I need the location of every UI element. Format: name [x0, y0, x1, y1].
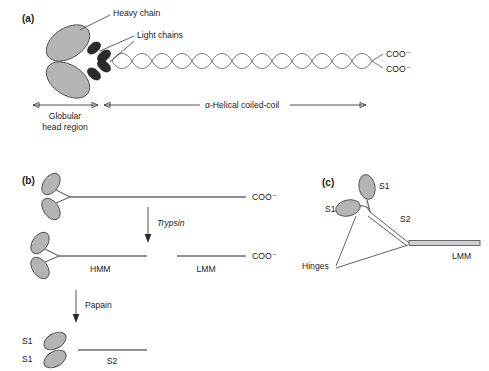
- lmm-label: LMM: [196, 264, 215, 274]
- s1-label-upper: S1: [22, 336, 33, 346]
- heavy-chain-leader-line: [80, 15, 110, 30]
- panel-b: (b) COO⁻ Trypsin HMM LMM COO⁻: [22, 170, 277, 371]
- trypsin-arrowhead: [145, 234, 152, 243]
- heavy-chain-label: Heavy chain: [113, 8, 161, 18]
- panel-c-label: (c): [322, 177, 334, 188]
- cooh-label-bottom: COO⁻: [386, 64, 411, 74]
- panel-c-s1-head-lower: [334, 197, 362, 218]
- coiled-coil-strand-upper: [112, 54, 372, 69]
- c-terminus-tail-lower: [372, 61, 383, 68]
- heavy-chain-head-lower: [40, 54, 97, 105]
- myosin-structure-figure: (a) COO⁻ COO⁻ Heavy chain Light chains: [0, 0, 489, 371]
- coiled-coil-strand-lower: [112, 54, 372, 69]
- intact-myosin-neck-lower: [56, 197, 70, 203]
- cooh-label-top: COO⁻: [386, 49, 411, 59]
- hmm-neck-lower: [45, 256, 59, 262]
- intact-myosin-head-lower: [38, 195, 64, 223]
- coiled-coil-label: α-Helical coiled-coil: [205, 100, 279, 110]
- panel-c-s2-label: S2: [400, 214, 411, 224]
- panel-c-lmm-rod: [409, 241, 480, 246]
- hmm-label: HMM: [90, 264, 111, 274]
- globular-head-label-line2: head region: [42, 122, 88, 132]
- s1-label-lower: S1: [22, 354, 33, 364]
- panel-c: (c) S1 S1 S2 LMM Hinges: [302, 173, 480, 271]
- intact-myosin-head-upper: [38, 170, 64, 198]
- hinge-leader-line-lmm: [336, 245, 408, 268]
- panel-c-s1-head-upper: [357, 173, 377, 200]
- hmm-neck-upper: [45, 249, 59, 256]
- panel-c-s1-label-upper: S1: [379, 181, 390, 191]
- intact-myosin-neck-upper: [56, 190, 70, 197]
- light-chains-label: Light chains: [137, 30, 183, 40]
- cooh-label-intact: COO⁻: [252, 192, 277, 202]
- panel-a: (a) COO⁻ COO⁻ Heavy chain Light chains: [22, 8, 411, 132]
- trypsin-label: Trypsin: [157, 218, 185, 228]
- globular-head-label-line1: Globular: [49, 111, 82, 121]
- panel-c-lmm-label: LMM: [452, 251, 471, 261]
- c-terminus-tail-upper: [372, 54, 383, 61]
- panel-a-label: (a): [22, 13, 34, 24]
- s1-fragment-upper: [41, 329, 69, 354]
- hinge-leader-line-s1: [336, 216, 356, 266]
- hmm-head-lower: [27, 254, 53, 282]
- light-chains-leader-line-1: [100, 36, 134, 51]
- heavy-chain-head-upper: [40, 17, 97, 68]
- panel-b-label: (b): [22, 175, 35, 186]
- hmm-head-upper: [27, 229, 53, 257]
- panel-c-s1-label-lower: S1: [325, 204, 336, 214]
- hinges-label: Hinges: [302, 261, 329, 271]
- s2-label: S2: [107, 356, 118, 366]
- cooh-label-lmm: COO⁻: [252, 251, 277, 261]
- papain-label: Papain: [85, 300, 112, 310]
- papain-arrowhead: [73, 314, 80, 323]
- s1-fragment-lower: [41, 347, 69, 371]
